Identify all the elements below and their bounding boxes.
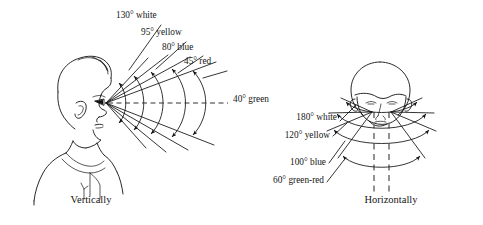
label-95-yellow: 95° yellow <box>141 27 182 37</box>
vision-field-figure: 130° white 95° yellow 80° blue 45° red 4… <box>0 0 483 225</box>
panel-horizontal: 180° white 120° yellow 100° blue 60° gre… <box>273 62 436 205</box>
label-60-green-red: 60° green-red <box>273 175 324 185</box>
profile-head-drawing <box>34 56 123 205</box>
label-180-white: 180° white <box>296 112 337 122</box>
label-40-green: 40° green <box>233 94 269 104</box>
caption-vertically: Vertically <box>71 194 113 205</box>
label-100-blue: 100° blue <box>290 157 326 167</box>
caption-horizontally: Horizontally <box>364 194 418 205</box>
label-120-yellow: 120° yellow <box>285 130 331 140</box>
panel-vertical: 130° white 95° yellow 80° blue 45° red 4… <box>34 10 269 205</box>
label-130-white: 130° white <box>116 10 157 20</box>
horizontal-field-arcs <box>334 102 429 167</box>
label-80-blue: 80° blue <box>162 42 193 52</box>
figure-canvas: 130° white 95° yellow 80° blue 45° red 4… <box>0 0 483 225</box>
label-45-red: 45° red <box>184 56 212 66</box>
